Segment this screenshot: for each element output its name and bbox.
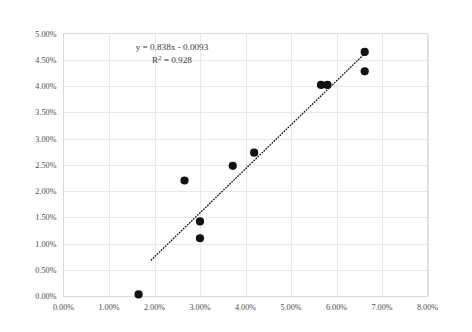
chart-canvas: 0.00%0.50%1.00%1.50%2.00%2.50%3.00%3.50%… (0, 0, 472, 332)
y-tick-label: 2.00% (35, 187, 56, 196)
data-point (361, 48, 369, 56)
x-tick-label: 2.00% (144, 303, 165, 312)
y-tick-label: 1.00% (35, 240, 56, 249)
data-point (196, 234, 204, 242)
y-tick-label: 4.50% (35, 56, 56, 65)
x-tick-label: 1.00% (98, 303, 119, 312)
data-point (196, 217, 204, 225)
data-point (250, 149, 258, 157)
data-point (134, 290, 142, 298)
x-tick-label: 7.00% (371, 303, 392, 312)
r-squared-value: = 0.928 (161, 55, 192, 65)
y-tick-label: 4.00% (35, 82, 56, 91)
y-tick-label: 1.50% (35, 213, 56, 222)
r-squared-label: R2 = 0.928 (152, 54, 192, 66)
data-point (323, 81, 331, 89)
x-tick-label: 5.00% (280, 303, 301, 312)
x-tick-label: 4.00% (235, 303, 256, 312)
x-tick-label: 6.00% (326, 303, 347, 312)
data-point (229, 162, 237, 170)
scatter-chart: 0.00%0.50%1.00%1.50%2.00%2.50%3.00%3.50%… (0, 0, 472, 332)
x-tick-label: 8.00% (417, 303, 438, 312)
data-point (180, 176, 188, 184)
data-point (361, 67, 369, 75)
y-tick-label: 3.50% (35, 108, 56, 117)
regression-equation-label: y = 0.838x - 0.0093 (136, 42, 209, 52)
y-tick-label: 2.50% (35, 161, 56, 170)
y-tick-label: 0.50% (35, 266, 56, 275)
y-tick-label: 3.00% (35, 135, 56, 144)
y-tick-label: 5.00% (35, 30, 56, 39)
x-tick-label: 0.00% (53, 303, 74, 312)
y-tick-label: 0.00% (35, 292, 56, 301)
x-axis-tick-labels: 0.00%1.00%2.00%3.00%4.00%5.00%6.00%7.00%… (53, 303, 438, 312)
x-tick-label: 3.00% (189, 303, 210, 312)
